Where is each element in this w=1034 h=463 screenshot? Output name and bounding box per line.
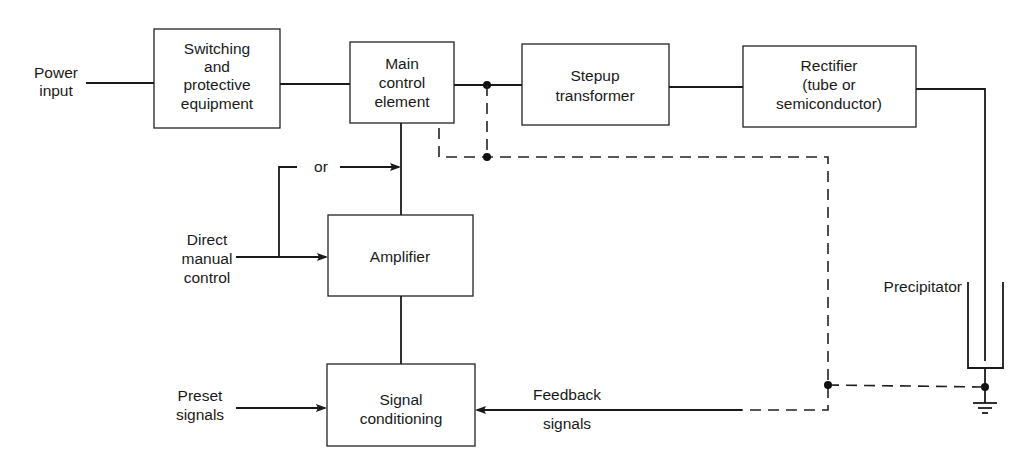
rectifier-line-1: Rectifier (801, 57, 858, 74)
main-control-block[interactable]: Main control element (350, 42, 454, 123)
switching-line-3: protective (183, 76, 250, 93)
main-control-line-2: control (379, 74, 426, 91)
preset-line-2: signals (176, 406, 224, 423)
preset-line-1: Preset (178, 387, 223, 404)
or-label: or (314, 158, 328, 175)
amplifier-label: Amplifier (370, 248, 430, 265)
rectifier-to-precipitator-wire (916, 89, 985, 361)
block-diagram: Power input Switching and protective equ… (0, 0, 1034, 463)
stepup-line-2: transformer (555, 87, 634, 104)
feedback-dash-loop (439, 128, 828, 410)
main-control-line-1: Main (385, 55, 419, 72)
ground-icon (973, 403, 997, 413)
stepup-transformer-block[interactable]: Stepup transformer (522, 44, 669, 125)
direct-manual-line-3: control (184, 269, 231, 286)
switching-block[interactable]: Switching and protective equipment (154, 29, 280, 128)
power-input-line-1: Power (34, 64, 78, 81)
feedback-label-line-2: signals (543, 415, 591, 432)
preset-signals-label: Preset signals (176, 387, 224, 423)
feedback-dash-precipitator (828, 385, 985, 387)
signal-conditioning-line-2: conditioning (360, 410, 443, 427)
rectifier-block[interactable]: Rectifier (tube or semiconductor) (743, 46, 916, 127)
power-input-line-2: input (39, 82, 73, 99)
junction-dot-feedback-right (824, 381, 832, 389)
direct-manual-line-2: manual (182, 250, 233, 267)
feedback-label-line-1: Feedback (533, 386, 601, 403)
direct-manual-control-label: Direct manual control (182, 231, 233, 286)
stepup-line-1: Stepup (570, 67, 619, 84)
switching-line-2: and (204, 58, 230, 75)
power-input-label: Power input (34, 64, 78, 99)
rectifier-line-2: (tube or (802, 76, 855, 93)
switching-line-4: equipment (181, 95, 254, 112)
precipitator-label: Precipitator (884, 278, 962, 295)
signal-conditioning-line-1: Signal (379, 391, 422, 408)
junction-dot-feedback-top (483, 153, 491, 161)
main-control-line-3: element (374, 93, 430, 110)
switching-line-1: Switching (184, 40, 250, 57)
signal-conditioning-block[interactable]: Signal conditioning (327, 364, 475, 446)
or-path-left (279, 167, 297, 257)
direct-manual-line-1: Direct (187, 231, 228, 248)
amplifier-block[interactable]: Amplifier (328, 215, 473, 296)
rectifier-line-3: semiconductor) (776, 95, 882, 112)
